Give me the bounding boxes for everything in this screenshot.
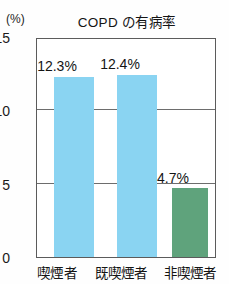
- value-label-smoker: 12.3%: [29, 58, 85, 74]
- category-label-non-smoker: 非喫煙者: [155, 262, 225, 282]
- value-label-non-smoker: 4.7%: [147, 170, 199, 186]
- bar-non-smoker: [172, 188, 208, 257]
- bar-ex-smoker: [117, 75, 157, 257]
- y-tick-5: 5: [0, 177, 10, 193]
- y-axis-unit-label: (%): [6, 12, 25, 26]
- chart-title: COPD の有病率: [36, 11, 217, 31]
- y-tick-10: 10: [0, 103, 10, 119]
- category-label-smoker: 喫煙者: [29, 262, 85, 282]
- y-tick-15: 15: [0, 30, 10, 46]
- y-tick-0: 0: [0, 250, 10, 266]
- value-label-ex-smoker: 12.4%: [92, 56, 148, 72]
- bar-smoker: [54, 77, 94, 257]
- copd-prevalence-chart: (%) COPD の有病率 15 10 5 0 12.3% 12.4% 4.7%…: [0, 0, 229, 284]
- category-label-ex-smoker: 既喫煙者: [86, 262, 156, 282]
